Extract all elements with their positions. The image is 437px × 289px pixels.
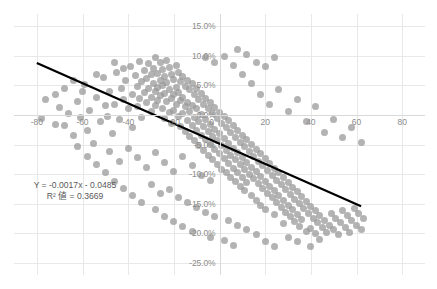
data-point bbox=[248, 80, 255, 87]
data-point bbox=[243, 179, 250, 186]
data-point bbox=[111, 101, 118, 108]
data-point bbox=[271, 243, 278, 250]
data-point bbox=[159, 66, 166, 73]
data-point bbox=[116, 158, 123, 165]
data-point bbox=[138, 199, 145, 206]
data-point bbox=[86, 107, 93, 114]
y-axis-tick-label: -25.0% bbox=[180, 258, 216, 268]
data-point bbox=[298, 216, 305, 223]
data-point bbox=[170, 218, 177, 225]
data-point bbox=[253, 231, 260, 238]
data-point bbox=[316, 236, 323, 243]
data-point bbox=[239, 71, 246, 78]
data-point bbox=[225, 217, 232, 224]
y-axis-tick-label: -20.0% bbox=[180, 228, 216, 238]
data-point bbox=[120, 96, 127, 103]
data-point bbox=[100, 74, 107, 81]
y-axis-tick-label: -15.0% bbox=[180, 199, 216, 209]
data-point bbox=[262, 238, 269, 245]
data-point bbox=[106, 148, 113, 155]
data-point bbox=[257, 91, 264, 98]
data-point bbox=[90, 140, 97, 147]
data-point bbox=[294, 238, 301, 245]
regression-annotation: Y = -0.0017x - 0.0485 R² 値 = 0.3669 bbox=[16, 180, 134, 202]
data-point bbox=[93, 161, 100, 168]
data-point bbox=[234, 222, 241, 229]
data-point bbox=[307, 243, 314, 250]
data-point bbox=[321, 129, 328, 136]
x-axis-tick-label: 40 bbox=[294, 117, 328, 127]
data-point bbox=[280, 220, 287, 227]
data-point bbox=[152, 206, 159, 213]
x-axis-tick-label: 60 bbox=[340, 117, 374, 127]
y-axis-tick-label: 10.0% bbox=[180, 51, 216, 61]
data-point bbox=[70, 132, 77, 139]
data-point bbox=[296, 223, 303, 230]
data-point bbox=[152, 149, 159, 156]
data-point bbox=[52, 91, 59, 98]
data-point bbox=[143, 164, 150, 171]
data-point bbox=[84, 153, 91, 160]
data-point bbox=[339, 134, 346, 141]
data-point bbox=[271, 211, 278, 218]
data-point bbox=[113, 69, 120, 76]
y-axis-line bbox=[220, 14, 221, 275]
data-point bbox=[61, 85, 68, 92]
x-axis-tick-label: 80 bbox=[385, 117, 419, 127]
data-point bbox=[102, 169, 109, 176]
data-point bbox=[202, 209, 209, 216]
data-point bbox=[312, 103, 319, 110]
data-point bbox=[93, 71, 100, 78]
x-axis-tick-label: 20 bbox=[248, 117, 282, 127]
data-point bbox=[74, 143, 81, 150]
y-axis-tick-label: -5.0% bbox=[180, 140, 216, 150]
data-point bbox=[358, 139, 365, 146]
data-point bbox=[93, 94, 100, 101]
data-point bbox=[163, 57, 170, 64]
data-point bbox=[266, 101, 273, 108]
data-point bbox=[159, 105, 166, 112]
data-point bbox=[285, 108, 292, 115]
data-point bbox=[330, 116, 337, 123]
data-point bbox=[111, 59, 118, 66]
data-point bbox=[157, 190, 164, 197]
data-point bbox=[294, 96, 301, 103]
data-point bbox=[56, 104, 63, 111]
data-point bbox=[132, 72, 139, 79]
y-axis-tick-label: -10.0% bbox=[180, 169, 216, 179]
data-point bbox=[173, 62, 180, 69]
data-point bbox=[42, 96, 49, 103]
data-point bbox=[141, 67, 148, 74]
x-axis-tick-label: -60 bbox=[66, 117, 100, 127]
data-point bbox=[230, 242, 237, 249]
data-point bbox=[234, 46, 241, 53]
data-point bbox=[106, 88, 113, 95]
data-point bbox=[358, 226, 365, 233]
data-point bbox=[271, 54, 278, 61]
data-point bbox=[79, 88, 86, 95]
scatter-chart: Y = -0.0017x - 0.0485 R² 値 = 0.3669 -80-… bbox=[0, 0, 437, 289]
y-axis-tick-label: 5.0% bbox=[180, 80, 216, 90]
data-point bbox=[166, 64, 173, 71]
x-axis-tick-label: -40 bbox=[111, 117, 145, 127]
data-point bbox=[125, 105, 132, 112]
data-point bbox=[179, 153, 186, 160]
data-point bbox=[211, 213, 218, 220]
data-point bbox=[335, 231, 342, 238]
x-axis-tick-label: -80 bbox=[20, 117, 54, 127]
data-point bbox=[134, 103, 141, 110]
data-point bbox=[221, 237, 228, 244]
data-point bbox=[262, 206, 269, 213]
data-point bbox=[125, 145, 132, 152]
data-point bbox=[241, 187, 248, 194]
data-point bbox=[120, 65, 127, 72]
data-point bbox=[84, 127, 91, 134]
data-point bbox=[360, 215, 367, 222]
r-squared-value: R² 値 = 0.3669 bbox=[16, 191, 134, 202]
data-point bbox=[285, 234, 292, 241]
data-point bbox=[109, 130, 116, 137]
data-point bbox=[136, 58, 143, 65]
data-point bbox=[74, 98, 81, 105]
data-point bbox=[275, 86, 282, 93]
data-point bbox=[148, 181, 155, 188]
